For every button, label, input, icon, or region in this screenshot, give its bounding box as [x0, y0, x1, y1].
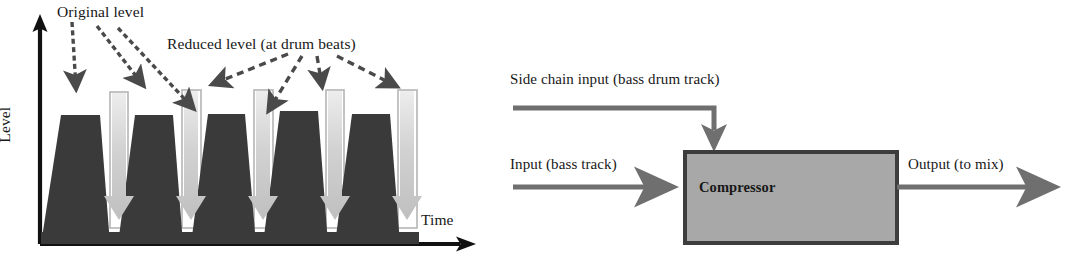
time-axis-label: Time	[421, 212, 454, 228]
level-over-time-plot: Original level Reduced level (at drum be…	[0, 0, 500, 264]
reduced-level-label: Reduced level (at drum beats)	[167, 36, 356, 52]
side-chain-signal-flow: Side chain input (bass drum track) Input…	[480, 0, 1072, 264]
compressor-block	[685, 152, 897, 243]
level-axis	[33, 14, 48, 244]
signal-flow-canvas	[480, 0, 1072, 264]
main-input-label: Input (bass track)	[510, 157, 617, 172]
compressor-label: Compressor	[699, 180, 775, 195]
waveform-block	[41, 115, 110, 244]
figure-root: Original level Reduced level (at drum be…	[0, 0, 1072, 264]
original-level-label: Original level	[57, 4, 144, 20]
gain-reduction-arrow	[320, 91, 350, 220]
reduced-level-leaders	[213, 54, 396, 110]
gain-reduction-arrow	[104, 93, 134, 220]
level-axis-label: Level	[0, 107, 13, 143]
waveform-blocks	[41, 111, 419, 244]
side-chain-input-label: Side chain input (bass drum track)	[510, 72, 720, 87]
side-chain-input-arrow	[513, 108, 727, 152]
main-output-label: Output (to mix)	[908, 157, 1004, 172]
